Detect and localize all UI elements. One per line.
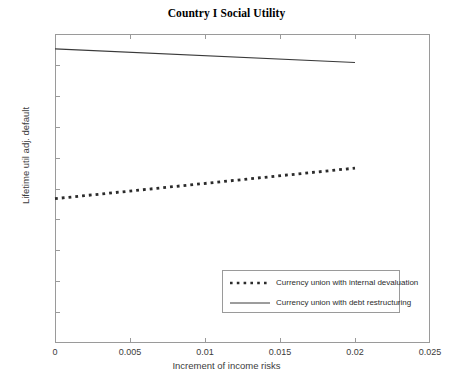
y-tick-mark xyxy=(55,312,60,313)
x-tick-label: 0.005 xyxy=(119,347,142,357)
x-tick-label: 0.025 xyxy=(419,347,442,357)
x-axis-label: Increment of income risks xyxy=(0,360,453,371)
legend-label-internal-devaluation: Currency union with internal devaluation xyxy=(276,278,418,287)
legend-label-debt-restructuring: Currency union with debt restructuring xyxy=(276,298,411,307)
y-tick-mark xyxy=(55,158,60,159)
y-tick-mark xyxy=(55,219,60,220)
y-axis-label: Lifetime util adj. default xyxy=(20,56,31,256)
x-tick-mark xyxy=(205,34,206,39)
chart-title: Country I Social Utility xyxy=(0,7,453,19)
x-tick-mark xyxy=(355,338,356,343)
legend-swatch-dotted-icon xyxy=(229,277,271,289)
y-tick-mark xyxy=(55,281,60,282)
y-tick-mark xyxy=(55,189,60,190)
y-tick-mark xyxy=(55,250,60,251)
figure-canvas: Country I Social Utility 3.23.213.223.23… xyxy=(0,0,453,379)
legend-entry-debt-restructuring: Currency union with debt restructuring xyxy=(223,292,401,313)
x-tick-label: 0.02 xyxy=(346,347,364,357)
x-tick-label: 0.01 xyxy=(196,347,214,357)
x-tick-mark xyxy=(130,338,131,343)
x-tick-mark xyxy=(130,34,131,39)
x-tick-label: 0 xyxy=(52,347,57,357)
y-tick-mark xyxy=(55,65,60,66)
y-tick-mark xyxy=(55,96,60,97)
y-tick-mark xyxy=(55,127,60,128)
legend-entry-internal-devaluation: Currency union with internal devaluation xyxy=(223,272,401,293)
x-tick-label: 0.015 xyxy=(269,347,292,357)
x-tick-mark xyxy=(355,34,356,39)
legend-swatch-solid-icon xyxy=(229,297,271,309)
legend-box: Currency union with internal devaluation… xyxy=(222,270,400,313)
x-tick-mark xyxy=(280,338,281,343)
x-tick-mark xyxy=(280,34,281,39)
x-tick-mark xyxy=(205,338,206,343)
